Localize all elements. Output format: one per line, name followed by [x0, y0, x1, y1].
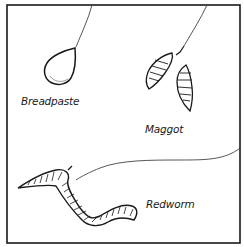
maggot-hook: [176, 46, 184, 55]
maggot-bait: [146, 5, 207, 111]
breadpaste-bait: [45, 5, 92, 84]
breadpaste-label: Breadpaste: [21, 95, 79, 107]
redworm-body: [18, 170, 137, 226]
maggot-1: [146, 53, 172, 89]
redworm-line: [76, 148, 240, 180]
bait-illustration: Breadpaste Maggot Redworm: [0, 0, 244, 247]
maggot-label: Maggot: [145, 123, 184, 135]
redworm-label: Redworm: [146, 198, 195, 210]
breadpaste-line: [76, 5, 92, 47]
breadpaste-ball: [45, 48, 76, 84]
maggot-line: [184, 5, 207, 46]
redworm-bait: [18, 148, 240, 226]
redworm-hook: [68, 166, 72, 170]
